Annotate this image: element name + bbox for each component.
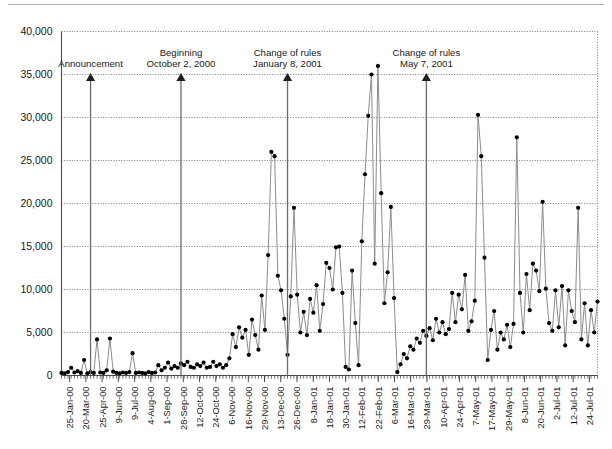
data-point-marker: [353, 321, 357, 325]
data-point-marker: [289, 294, 293, 298]
x-axis-tick-label: 16-Mar-01: [406, 387, 416, 430]
data-point-marker: [105, 368, 109, 372]
data-point-marker: [492, 309, 496, 313]
data-point-marker: [566, 288, 570, 292]
header-divider: [8, 4, 604, 5]
data-point-marker: [563, 343, 567, 347]
data-point-marker: [576, 206, 580, 210]
data-point-marker: [495, 348, 499, 352]
data-point-marker: [240, 336, 244, 340]
chart-figure: 05,00010,00015,00020,00025,00030,00035,0…: [0, 0, 612, 449]
x-axis-tick-label: 2-Jul-01: [552, 387, 562, 421]
data-point-marker: [318, 329, 322, 333]
data-point-marker: [595, 299, 599, 303]
data-point-marker: [482, 256, 486, 260]
data-point-marker: [356, 363, 360, 367]
data-point-marker: [92, 371, 96, 375]
data-point-marker: [360, 239, 364, 243]
data-point-marker: [418, 341, 422, 345]
data-point-marker: [282, 317, 286, 321]
annotation-label: Announcement: [58, 58, 123, 69]
x-axis-tick-label: 29-May-01: [504, 387, 514, 431]
data-point-marker: [444, 332, 448, 336]
x-axis-tick-label: 30-Jan-01: [341, 387, 351, 429]
x-axis-tick-label: 8-Jun-01: [520, 387, 530, 424]
data-point-marker: [108, 336, 112, 340]
annotation-arrow-head: [86, 73, 95, 81]
data-point-marker: [428, 326, 432, 330]
data-point-marker: [218, 362, 222, 366]
data-point-marker: [405, 356, 409, 360]
x-axis-tick-label: 25-Jan-00: [65, 387, 75, 429]
data-point-marker: [253, 333, 257, 337]
data-point-marker: [263, 328, 267, 332]
data-point-marker: [473, 299, 477, 303]
data-point-marker: [273, 154, 277, 158]
x-axis-tick-label: 1-Sep-00: [162, 387, 172, 425]
data-point-marker: [534, 268, 538, 272]
data-point-marker: [298, 330, 302, 334]
data-point-marker: [515, 135, 519, 139]
data-point-marker: [537, 289, 541, 293]
data-point-marker: [521, 330, 525, 334]
annotation-label: Change of rules: [254, 47, 322, 58]
data-point-marker: [402, 352, 406, 356]
data-point-marker: [237, 325, 241, 329]
data-point-marker: [476, 113, 480, 117]
data-point-marker: [389, 205, 393, 209]
series-line: [62, 66, 598, 373]
data-point-marker: [373, 262, 377, 266]
data-point-marker: [192, 366, 196, 370]
data-point-marker: [366, 114, 370, 118]
data-point-marker: [350, 268, 354, 272]
data-point-marker: [582, 301, 586, 305]
data-point-marker: [463, 273, 467, 277]
data-point-marker: [292, 206, 296, 210]
x-axis-tick-label: 9-Jun-00: [114, 387, 124, 424]
data-point-marker: [382, 301, 386, 305]
x-axis-tick-label: 25-Apr-00: [98, 387, 108, 428]
x-axis-tick-label: 29-Nov-00: [260, 387, 270, 430]
data-point-marker: [511, 322, 515, 326]
x-axis-tick-label: 18-Jan-01: [325, 387, 335, 429]
y-axis-tick-label: 15,000: [20, 240, 52, 252]
y-axis-tick-label: 25,000: [20, 154, 52, 166]
data-point-marker: [541, 200, 545, 204]
data-point-marker: [231, 332, 235, 336]
data-point-marker: [499, 330, 503, 334]
x-axis-tick-label: 12-Oct-00: [195, 387, 205, 428]
data-point-marker: [66, 370, 70, 374]
data-point-marker: [505, 323, 509, 327]
annotation-label-date: October 2, 2000: [147, 58, 216, 69]
data-point-marker: [466, 329, 470, 333]
x-axis-tick-label: 22-Feb-01: [374, 387, 384, 430]
line-chart: 05,00010,00015,00020,00025,00030,00035,0…: [0, 0, 612, 449]
data-point-marker: [211, 360, 215, 364]
data-point-marker: [127, 370, 131, 374]
data-point-marker: [185, 360, 189, 364]
data-point-marker: [431, 338, 435, 342]
x-axis-tick-label: 28-Sep-00: [179, 387, 189, 430]
data-point-marker: [311, 311, 315, 315]
x-axis-tick-label: 13-Dec-00: [276, 387, 286, 430]
data-point-marker: [379, 191, 383, 195]
data-point-marker: [592, 330, 596, 334]
x-axis-tick-label: 8-Jan-01: [309, 387, 319, 424]
x-axis-tick-label: 26-Dec-00: [292, 387, 302, 430]
data-point-marker: [415, 336, 419, 340]
x-axis-tick-label: 10-Apr-01: [439, 387, 449, 428]
data-point-marker: [376, 64, 380, 68]
data-point-marker: [156, 363, 160, 367]
data-point-marker: [528, 308, 532, 312]
data-point-marker: [227, 356, 231, 360]
annotation-label: Change of rules: [393, 47, 461, 58]
data-point-marker: [502, 337, 506, 341]
y-axis-tick-label: 35,000: [20, 68, 52, 80]
x-axis-tick-label: 24-Oct-00: [211, 387, 221, 428]
data-point-marker: [447, 327, 451, 331]
data-point-marker: [573, 320, 577, 324]
data-point-marker: [182, 363, 186, 367]
y-axis-tick-label: 20,000: [20, 197, 52, 209]
data-point-marker: [208, 365, 212, 369]
data-point-marker: [524, 272, 528, 276]
